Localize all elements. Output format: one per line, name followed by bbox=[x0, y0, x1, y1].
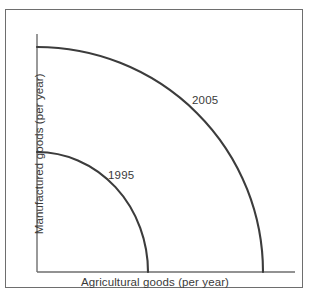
ppf-figure: 2005 1995 Agricultural goods (per year) … bbox=[0, 0, 310, 296]
ppf-curve-2005 bbox=[37, 47, 263, 272]
plot-area bbox=[0, 0, 310, 296]
y-axis-title: Manufactured goods (per year) bbox=[34, 29, 46, 279]
curve-label-2005: 2005 bbox=[192, 95, 218, 107]
x-axis-title: Agricultural goods (per year) bbox=[0, 277, 310, 289]
curve-label-1995: 1995 bbox=[108, 170, 134, 182]
